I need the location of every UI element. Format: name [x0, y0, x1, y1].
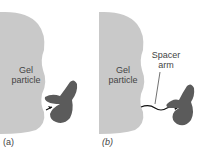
gel-particle-label: Gel particle — [103, 65, 143, 85]
gel-label-line2: particle — [103, 75, 143, 85]
protein-shape — [166, 84, 194, 125]
caption-b: (b) — [102, 137, 113, 147]
spacer-label-leader — [155, 72, 160, 104]
gel-label-line1: Gel — [103, 65, 143, 75]
panel-b: Gel particle Spacer arm (b) — [99, 0, 197, 156]
gel-label-line2: particle — [6, 75, 46, 85]
gel-label-line1: Gel — [6, 65, 46, 75]
spacer-label-line2: arm — [147, 60, 185, 70]
caption-a: (a) — [3, 137, 14, 147]
spacer-label-line1: Spacer — [147, 50, 185, 60]
panel-a: Gel particle (a) — [0, 0, 98, 156]
gel-particle-label: Gel particle — [6, 65, 46, 85]
spacer-arm-label: Spacer arm — [147, 50, 185, 70]
protein-shape — [45, 80, 77, 123]
